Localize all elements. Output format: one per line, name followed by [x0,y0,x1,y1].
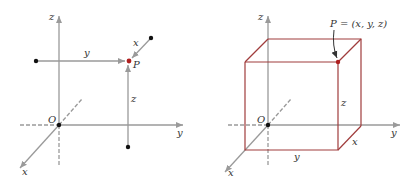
x-projection-label: x [133,37,139,48]
x-axis-negative-dashed [59,99,82,125]
y-projection-label: y [83,47,90,58]
x-axis [225,125,268,172]
edge-y-label: y [293,151,300,162]
x-axis-label: x [22,166,28,177]
origin-label: O [257,114,265,125]
point-label: P [132,59,140,70]
rectangular-box [245,39,361,150]
point-coordinate-label: P = (x, y, z) [329,18,387,29]
point-p-dot [127,59,132,64]
z-projection-label: z [130,93,137,104]
y-start-dot [34,59,38,63]
left-figure: z y x O P y x z [20,11,183,177]
x-axis-negative-dashed [268,99,291,125]
y-axis-label: y [390,127,397,138]
point-p-dot [336,60,340,64]
origin-dot [266,123,270,127]
x-axis [20,125,59,168]
right-figure: z y x O P = (x, y, z) z x y [225,11,400,178]
edge-z-label: z [340,97,347,108]
y-axis-label: y [176,127,183,138]
x-axis-label: x [228,167,234,178]
point-pointer-arrow [333,30,337,58]
z-axis-label: z [48,11,55,22]
z-start-dot [126,145,130,149]
origin-label: O [48,114,56,125]
edge-x-label: x [352,136,358,147]
origin-dot [57,123,61,127]
coordinate-diagrams: z y x O P y x z [0,0,411,190]
x-start-dot [149,36,153,40]
z-axis-label: z [257,11,264,22]
